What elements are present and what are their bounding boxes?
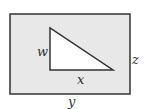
diagram-canvas: w x z y xyxy=(0,0,147,109)
label-w: w xyxy=(37,44,48,59)
label-y: y xyxy=(67,94,76,109)
label-z: z xyxy=(131,52,139,67)
label-x: x xyxy=(77,72,85,87)
